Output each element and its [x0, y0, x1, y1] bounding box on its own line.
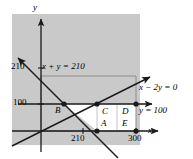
- label-line-y-equals-100: y = 100: [139, 106, 167, 115]
- y-tick-label-210: 210: [11, 62, 25, 71]
- label-point-B: B: [55, 106, 61, 115]
- dot-C: [94, 101, 99, 106]
- dot-D: [133, 101, 138, 106]
- dot-B: [61, 101, 66, 106]
- y-axis-label: y: [33, 3, 37, 12]
- x-tick-label-300: 300: [128, 134, 142, 143]
- x-axis-label: x: [148, 126, 152, 135]
- x-tick-label-210: 210: [71, 134, 85, 143]
- label-point-A: A: [101, 119, 107, 128]
- y-tick-label-100: 100: [13, 98, 27, 107]
- graph-svg: [0, 0, 193, 159]
- label-line-x-plus-y-210: x + y = 210: [42, 62, 85, 71]
- label-line-x-minus-2y-0: x − 2y = 0: [139, 83, 177, 92]
- label-point-E: E: [122, 119, 128, 128]
- label-point-D: D: [122, 107, 129, 116]
- label-point-C: C: [102, 107, 108, 116]
- dot-A: [94, 128, 99, 133]
- figure-container: y x 210 100 210 300 x + y = 210 x − 2y =…: [0, 0, 193, 159]
